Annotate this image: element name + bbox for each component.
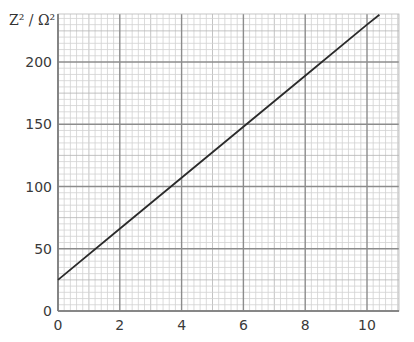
chart: 0246810 050100150200 Z² / Ω² [0,0,414,342]
y-tick-label: 200 [25,54,52,70]
y-tick-label: 0 [43,303,52,319]
x-tick-label: 0 [54,317,63,333]
y-axis-label: Z² / Ω² [9,12,55,28]
major-grid [58,14,399,311]
minor-grid [58,14,399,311]
x-tick-label: 2 [115,317,124,333]
x-tick-label: 8 [301,317,310,333]
x-tick-labels: 0246810 [54,317,376,333]
y-tick-label: 150 [25,116,52,132]
x-tick-label: 6 [239,317,248,333]
x-tick-label: 10 [358,317,376,333]
y-tick-label: 50 [34,241,52,257]
y-tick-labels: 050100150200 [25,54,52,319]
y-tick-label: 100 [25,179,52,195]
x-tick-label: 4 [177,317,186,333]
axes [58,14,399,311]
